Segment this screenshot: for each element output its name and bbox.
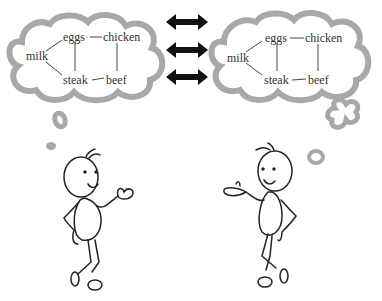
- double-arrow-icon: [166, 69, 208, 85]
- foot: [280, 269, 288, 283]
- hair: [256, 143, 274, 150]
- node-milk: milk: [227, 51, 249, 65]
- right-stick-figure: [224, 143, 296, 287]
- waving-arm: [246, 192, 264, 200]
- thought-bubble-small: [309, 151, 323, 163]
- eye: [84, 171, 86, 173]
- eye: [262, 168, 264, 170]
- foot: [88, 280, 102, 290]
- foot: [258, 277, 272, 287]
- eye: [95, 171, 97, 173]
- hand: [224, 182, 246, 196]
- waving-arm: [97, 196, 118, 207]
- legs: [78, 240, 99, 274]
- node-beef: beef: [308, 73, 329, 87]
- body: [74, 198, 101, 240]
- thought-bubble-small: [53, 112, 67, 129]
- double-arrow-icon: [166, 14, 208, 30]
- thought-bubble-medium: [328, 100, 358, 128]
- left-stick-figure: [64, 149, 133, 290]
- node-eggs: eggs: [265, 31, 287, 45]
- double-arrows: [166, 14, 208, 85]
- eye: [273, 168, 275, 170]
- smile: [264, 180, 275, 184]
- legs: [262, 234, 276, 270]
- double-arrow-icon: [166, 42, 208, 58]
- node-chicken: chicken: [103, 30, 140, 44]
- node-steak: steak: [264, 73, 289, 87]
- node-steak: steak: [63, 73, 88, 87]
- right-thought-cloud: [211, 13, 368, 163]
- thought-bubble-tiny: [46, 142, 56, 150]
- hand: [118, 189, 133, 199]
- node-milk: milk: [26, 49, 48, 63]
- foot: [71, 272, 79, 286]
- hair: [86, 149, 100, 158]
- head: [258, 151, 292, 191]
- node-beef: beef: [106, 73, 127, 87]
- head: [64, 157, 98, 197]
- node-eggs: eggs: [63, 30, 85, 44]
- node-chicken: chicken: [305, 31, 342, 45]
- body: [259, 192, 282, 235]
